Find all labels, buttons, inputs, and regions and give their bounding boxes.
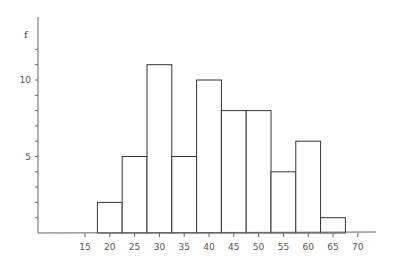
histogram-bar (197, 80, 222, 233)
y-axis-ticks: 510 (20, 49, 38, 217)
x-tick-label: 20 (104, 242, 116, 252)
x-tick-label: 30 (154, 242, 166, 252)
x-tick-label: 45 (228, 242, 239, 252)
x-tick-label: 55 (278, 242, 289, 252)
x-tick-label: 25 (129, 242, 140, 252)
histogram-bar (271, 172, 296, 233)
x-tick-label: 60 (302, 242, 314, 252)
histogram-bar (122, 157, 147, 234)
x-tick-label: 35 (178, 242, 189, 252)
y-axis-label: f (24, 29, 29, 40)
x-tick-label: 70 (352, 242, 364, 252)
histogram-bars (97, 65, 345, 233)
histogram-bar (147, 65, 172, 233)
histogram-bar (296, 141, 321, 233)
x-tick-label: 40 (203, 242, 215, 252)
x-axis-ticks: 152025303540455055606570 (79, 233, 364, 252)
histogram-bar (321, 218, 346, 233)
y-tick-label: 5 (25, 152, 31, 162)
histogram-bar (221, 111, 246, 233)
y-tick-label: 10 (20, 75, 32, 85)
histogram-bar (172, 157, 197, 234)
histogram-bar (246, 111, 271, 233)
x-tick-label: 65 (327, 242, 338, 252)
x-tick-label: 15 (79, 242, 90, 252)
histogram-chart: 510 152025303540455055606570 f (0, 0, 395, 269)
x-tick-label: 50 (253, 242, 265, 252)
histogram-bar (97, 202, 122, 233)
